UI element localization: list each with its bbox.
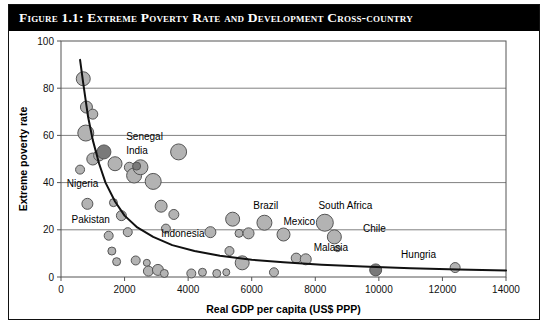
x-tick-label-2000: 2000: [113, 284, 136, 295]
x-axis-title: Real GDP per capita (US$ PPP): [206, 303, 360, 315]
y-tick-label-0: 0: [48, 272, 54, 283]
data-point: [143, 266, 153, 276]
data-point: [257, 215, 272, 230]
data-point: [450, 263, 460, 273]
page-title: Figure 1.1: Extreme Poverty Rate and Dev…: [9, 10, 413, 26]
data-point: [108, 247, 116, 255]
figure-container: Figure 1.1: Extreme Poverty Rate and Dev…: [8, 4, 540, 320]
figure-title-bar: Figure 1.1: Extreme Poverty Rate and Dev…: [9, 5, 539, 31]
x-tick-label-8000: 8000: [304, 284, 327, 295]
data-point: [97, 145, 111, 159]
data-point: [76, 165, 85, 174]
data-point: [160, 269, 168, 277]
annotation-south-africa: South Africa: [318, 200, 372, 211]
data-point: [104, 231, 113, 240]
annotation-indonesia: Indonesia: [161, 228, 205, 239]
x-tick-label-10000: 10000: [365, 284, 393, 295]
data-point: [198, 268, 206, 276]
y-tick-label-100: 100: [37, 36, 54, 47]
y-tick-label-40: 40: [43, 177, 55, 188]
data-point: [243, 228, 254, 239]
data-point: [145, 173, 161, 189]
x-axis-ticks: 02000400060008000100001200014000: [58, 277, 520, 295]
data-point: [131, 256, 140, 265]
plot-border: [61, 41, 506, 277]
y-tick-label-80: 80: [43, 83, 55, 94]
data-point: [171, 144, 187, 160]
data-point: [169, 209, 179, 219]
y-tick-label-20: 20: [43, 224, 55, 235]
data-point: [316, 214, 333, 231]
data-point: [225, 247, 234, 256]
x-tick-label-6000: 6000: [241, 284, 264, 295]
data-point: [269, 268, 278, 277]
data-point: [113, 258, 121, 266]
data-point: [291, 253, 301, 263]
data-point: [155, 200, 167, 212]
data-point: [213, 269, 221, 277]
data-point: [223, 269, 230, 276]
data-point: [370, 264, 382, 276]
data-point: [205, 227, 216, 238]
plot-frame: [61, 41, 506, 277]
annotation-india: India: [126, 145, 148, 156]
annotation-malasia: Malasia: [314, 242, 349, 253]
annotation-senegal: Senegal: [126, 131, 163, 142]
data-point: [123, 228, 132, 237]
y-axis-title: Extreme poverty rate: [17, 107, 29, 212]
data-point: [235, 229, 243, 237]
y-axis-ticks: 020406080100: [37, 36, 61, 283]
annotation-mexico: Mexico: [284, 216, 316, 227]
scatter-chart: 02000400060008000100001200014000 0204060…: [9, 31, 541, 321]
data-point: [108, 157, 122, 171]
data-point: [143, 259, 150, 266]
x-tick-label-14000: 14000: [492, 284, 520, 295]
data-point: [133, 162, 141, 170]
data-point: [226, 212, 240, 226]
plot-area: 02000400060008000100001200014000 0204060…: [9, 31, 539, 321]
data-points: [76, 72, 461, 278]
y-tick-label-60: 60: [43, 130, 55, 141]
annotation-nigeria: Nigeria: [67, 178, 99, 189]
x-tick-label-12000: 12000: [429, 284, 457, 295]
data-point: [88, 109, 98, 119]
x-tick-label-4000: 4000: [177, 284, 200, 295]
x-tick-label-0: 0: [58, 284, 64, 295]
gridlines: [61, 88, 506, 230]
annotation-brazil: Brazil: [253, 200, 278, 211]
annotation-pakistan: Pakistan: [71, 214, 109, 225]
data-point: [277, 228, 290, 241]
data-point: [187, 269, 196, 278]
data-point: [82, 198, 93, 209]
annotation-hungria: Hungria: [401, 249, 436, 260]
point-labels: SenegalIndiaNigeriaPakistanIndonesiaBraz…: [67, 131, 437, 260]
annotation-chile: Chile: [363, 223, 386, 234]
